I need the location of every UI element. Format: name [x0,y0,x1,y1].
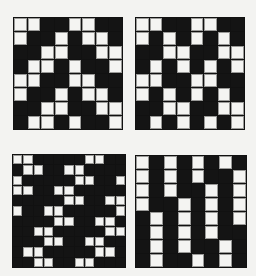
white-cell [233,212,246,225]
black-cell [136,212,149,225]
black-cell [28,46,41,59]
black-cell [14,46,27,59]
white-cell [44,237,53,246]
white-cell [14,74,27,87]
black-cell [23,227,32,236]
white-cell [82,18,95,31]
white-cell [163,88,176,101]
white-cell [205,198,218,211]
black-cell [55,116,68,129]
black-cell [85,247,94,256]
black-cell [163,116,176,129]
black-cell [44,247,53,256]
black-cell [96,74,109,87]
black-cell [231,74,244,87]
black-cell [163,60,176,73]
white-cell [231,60,244,73]
white-cell [219,254,232,267]
white-cell [233,184,246,197]
pattern-grid-bottom-left [12,154,126,268]
black-cell [233,156,246,169]
white-cell [44,206,53,215]
black-cell [13,165,22,174]
black-cell [69,32,82,45]
black-cell [64,155,73,164]
black-cell [164,254,177,267]
black-cell [34,155,43,164]
black-cell [150,170,163,183]
white-cell [41,102,54,115]
black-cell [116,186,125,195]
black-cell [116,237,125,246]
white-cell [163,32,176,45]
black-cell [44,217,53,226]
black-cell [191,60,204,73]
white-cell [150,226,163,239]
white-cell [163,46,176,59]
white-cell [105,217,114,226]
white-cell [41,116,54,129]
white-cell [85,258,94,267]
white-cell [95,217,104,226]
white-cell [177,46,190,59]
white-cell [64,186,73,195]
white-cell [64,165,73,174]
white-cell [55,46,68,59]
black-cell [136,254,149,267]
black-cell [219,184,232,197]
black-cell [177,74,190,87]
black-cell [205,156,218,169]
white-cell [233,170,246,183]
black-cell [55,74,68,87]
black-cell [191,116,204,129]
black-cell [105,237,114,246]
white-cell [192,156,205,169]
black-cell [116,165,125,174]
white-cell [96,88,109,101]
white-cell [13,186,22,195]
white-cell [178,198,191,211]
black-cell [23,176,32,185]
black-cell [64,258,73,267]
black-cell [178,184,191,197]
black-cell [231,32,244,45]
black-cell [116,217,125,226]
black-cell [41,32,54,45]
white-cell [231,116,244,129]
white-cell [64,196,73,205]
black-cell [192,212,205,225]
black-cell [34,206,43,215]
black-cell [34,176,43,185]
white-cell [116,196,125,205]
white-cell [204,116,217,129]
white-cell [34,227,43,236]
black-cell [233,240,246,253]
black-cell [14,116,27,129]
black-cell [105,206,114,215]
white-cell [192,254,205,267]
white-cell [69,74,82,87]
white-cell [85,237,94,246]
white-cell [41,60,54,73]
black-cell [23,217,32,226]
white-cell [219,156,232,169]
black-cell [44,186,53,195]
black-cell [164,226,177,239]
white-cell [219,240,232,253]
black-cell [69,88,82,101]
white-cell [150,116,163,129]
black-cell [75,247,84,256]
black-cell [95,196,104,205]
black-cell [13,247,22,256]
black-cell [54,176,63,185]
black-cell [109,32,122,45]
black-cell [96,60,109,73]
black-cell [163,18,176,31]
white-cell [64,217,73,226]
black-cell [28,32,41,45]
black-cell [231,88,244,101]
black-cell [23,237,32,246]
black-cell [34,186,43,195]
black-cell [105,258,114,267]
white-cell [13,176,22,185]
